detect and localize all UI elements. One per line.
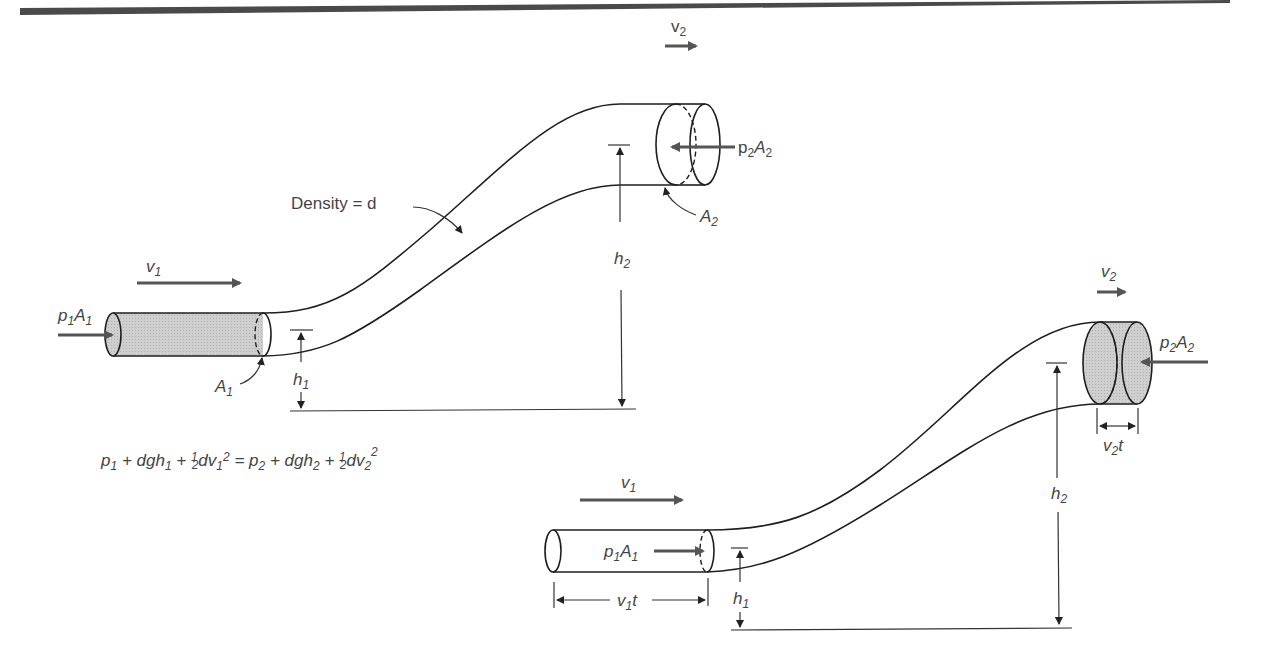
p2A2-label: p2A2 [738, 138, 773, 160]
h1-dimension-bottom [731, 548, 1072, 630]
h2-label: h2 [614, 249, 630, 271]
h1-dimension [290, 330, 636, 411]
v1-label-bottom: v1 [621, 473, 636, 495]
density-label: Density = d [291, 194, 377, 213]
bernoulli-figure: v1 v2 p1A1 p2A2 A1 A2 Density = d h1 h2 … [0, 0, 1270, 670]
p2A2-label-bottom: p2A2 [1159, 333, 1195, 355]
v1t-label: v1t [617, 591, 638, 613]
A2-pointer [665, 188, 696, 215]
A1-label: A1 [214, 377, 233, 399]
fluid-segment-2 [1083, 322, 1152, 404]
A1-pointer [240, 358, 262, 384]
fluid-segment-1 [105, 313, 271, 356]
v2t-dimension [1097, 408, 1138, 434]
top-pipe-diagram: v1 v2 p1A1 p2A2 A1 A2 Density = d h1 h2 [57, 17, 773, 411]
v2-label: v2 [671, 17, 687, 39]
outlet-cylinder-A2 [656, 104, 720, 185]
v2-label-bottom: v2 [1101, 262, 1117, 284]
h2-label-bottom: h2 [1051, 484, 1067, 506]
header-bar [20, 0, 1230, 15]
v1-label: v1 [146, 257, 161, 279]
bottom-pipe-diagram: v1 v2 p1A1 p2A2 v1t v2t h1 [545, 262, 1208, 630]
v2t-label: v2t [1103, 436, 1124, 458]
h1-label: h1 [293, 370, 309, 392]
bernoulli-equation: p1 + dgh1 + 12dv12 = p2 + dgh2 + 12dv22 [100, 445, 378, 474]
p1A1-label: p1A1 [57, 306, 92, 328]
bottom-pipe-upper-wall [707, 322, 1100, 530]
p1A1-label-bottom: p1A1 [603, 542, 638, 564]
h2-dimension [608, 145, 630, 406]
h1-label-bottom: h1 [733, 589, 749, 611]
density-pointer [413, 207, 462, 233]
A2-label: A2 [699, 207, 718, 229]
bottom-pipe-lower-wall [707, 404, 1100, 572]
